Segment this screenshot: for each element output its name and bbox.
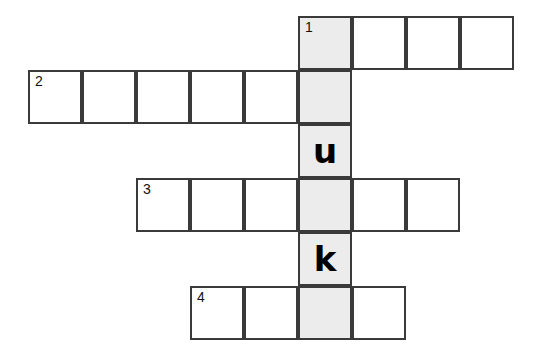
crossword-cell[interactable]: [460, 16, 514, 70]
crossword-cell[interactable]: [190, 70, 244, 124]
crossword-cell[interactable]: [190, 178, 244, 232]
crossword-cell[interactable]: u: [298, 124, 352, 178]
crossword-cell[interactable]: [352, 286, 406, 340]
cell-letter: k: [300, 234, 350, 284]
crossword-cell[interactable]: [298, 178, 352, 232]
clue-number: 1: [305, 20, 313, 34]
clue-number: 2: [35, 74, 43, 88]
crossword-puzzle: 12u3k4: [0, 0, 535, 345]
clue-number: 3: [143, 182, 151, 196]
crossword-cell[interactable]: 4: [190, 286, 244, 340]
crossword-cell[interactable]: [406, 178, 460, 232]
crossword-cell[interactable]: [298, 70, 352, 124]
crossword-cell[interactable]: [244, 286, 298, 340]
crossword-cell[interactable]: [298, 286, 352, 340]
clue-number: 4: [197, 290, 205, 304]
cell-letter: u: [300, 126, 350, 176]
crossword-cell[interactable]: [352, 16, 406, 70]
crossword-cell[interactable]: 2: [28, 70, 82, 124]
crossword-cell[interactable]: k: [298, 232, 352, 286]
crossword-cell[interactable]: [406, 16, 460, 70]
crossword-cell[interactable]: 1: [298, 16, 352, 70]
crossword-cell[interactable]: [82, 70, 136, 124]
crossword-cell[interactable]: [352, 178, 406, 232]
crossword-cell[interactable]: [244, 178, 298, 232]
crossword-cell[interactable]: [244, 70, 298, 124]
crossword-cell[interactable]: 3: [136, 178, 190, 232]
crossword-cell[interactable]: [136, 70, 190, 124]
